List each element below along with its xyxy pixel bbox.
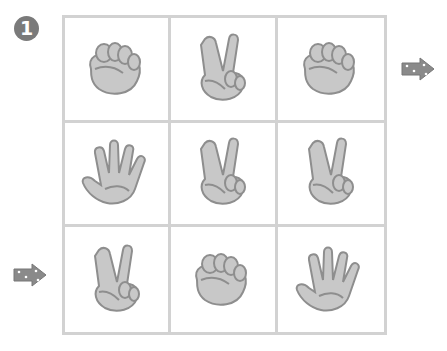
- grid-cell-2-1-paper: [65, 123, 171, 228]
- grid-cell-1-1-rock: [65, 18, 171, 123]
- scissors-hand-icon: [77, 240, 157, 320]
- grid-cell-1-2-scissors: [171, 18, 277, 123]
- grid-cell-2-3-scissors: [278, 123, 384, 228]
- paper-hand-icon: [77, 133, 157, 213]
- grid-cell-3-2-rock: [171, 227, 277, 332]
- start-arrow-icon: [12, 262, 48, 288]
- grid-cell-3-1-scissors: [65, 227, 171, 332]
- paper-hand-icon: [291, 240, 371, 320]
- grid-cell-2-2-scissors: [171, 123, 277, 228]
- puzzle-grid: [62, 15, 387, 335]
- rock-fist-icon: [77, 29, 157, 109]
- rock-fist-icon: [291, 29, 371, 109]
- exit-arrow-icon: [400, 56, 436, 82]
- grid-cell-1-3-rock: [278, 18, 384, 123]
- grid-cell-3-3-paper: [278, 227, 384, 332]
- scissors-hand-icon: [183, 133, 263, 213]
- puzzle-number-badge: 1: [14, 16, 39, 41]
- scissors-hand-icon: [291, 133, 371, 213]
- scissors-hand-icon: [183, 29, 263, 109]
- rock-fist-icon: [183, 240, 263, 320]
